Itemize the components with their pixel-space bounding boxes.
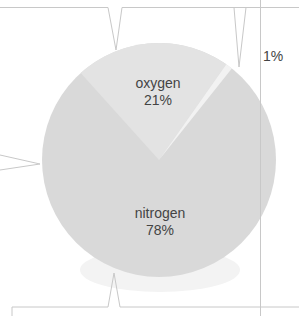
callout-top-right <box>232 8 246 68</box>
label-nitrogen-name: nitrogen <box>112 205 208 222</box>
label-oxygen-pct: 21% <box>118 92 198 109</box>
label-nitrogen: nitrogen 78% <box>112 205 208 239</box>
label-nitrogen-pct: 78% <box>112 222 208 239</box>
callout-left <box>0 155 40 170</box>
label-oxygen: oxygen 21% <box>118 75 198 109</box>
pie-chart <box>0 0 299 316</box>
label-other-pct: 1% <box>258 48 288 65</box>
label-oxygen-name: oxygen <box>118 75 198 92</box>
